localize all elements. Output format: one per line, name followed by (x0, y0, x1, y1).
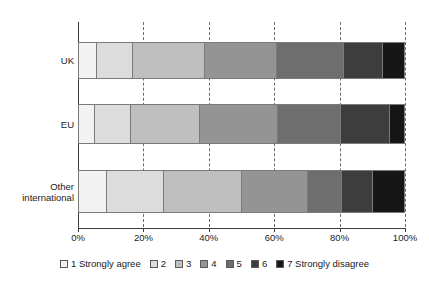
bar-segment (78, 42, 96, 79)
y-axis-label-eu: EU (0, 119, 74, 130)
legend-item-1[interactable]: 1 Strongly agree (60, 258, 141, 269)
legend-swatch-icon (175, 260, 183, 268)
bar-segment (389, 104, 405, 144)
gridline-100 (405, 22, 406, 227)
bar-segment (204, 42, 276, 79)
bar-segment (78, 104, 94, 144)
bar-segment (132, 42, 204, 79)
chart-legend: 1 Strongly agree234567 Strongly disagree (0, 258, 429, 269)
bar-segment (78, 170, 106, 213)
y-axis-label-uk: UK (0, 55, 74, 66)
bar-uk (78, 42, 405, 79)
bar-segment (106, 170, 163, 213)
y-axis-label-line: Other (0, 181, 74, 192)
legend-label: 2 (161, 258, 166, 269)
y-axis-label-line: international (0, 192, 74, 203)
x-axis-tick-80: 80% (320, 232, 360, 243)
legend-label: 5 (237, 258, 242, 269)
bar-segment (341, 170, 372, 213)
legend-swatch-icon (150, 260, 158, 268)
y-axis-label-line: UK (0, 55, 74, 66)
bar-segment (94, 104, 130, 144)
bar-segment (96, 42, 132, 79)
legend-item-4[interactable]: 4 (200, 258, 216, 269)
legend-item-7[interactable]: 7 Strongly disagree (276, 258, 369, 269)
legend-swatch-icon (251, 260, 259, 268)
bar-segment (163, 170, 241, 213)
legend-label: 1 Strongly agree (71, 258, 141, 269)
legend-swatch-icon (226, 260, 234, 268)
legend-item-2[interactable]: 2 (150, 258, 166, 269)
bar-segment (372, 170, 405, 213)
bar-segment (276, 42, 343, 79)
bar-segment (130, 104, 199, 144)
y-axis-label-line: EU (0, 119, 74, 130)
stacked-bar-chart: UKEUOtherinternational 0%20%40%60%80%100… (0, 0, 429, 285)
x-axis-tick-20: 20% (123, 232, 163, 243)
legend-label: 3 (186, 258, 191, 269)
bar-eu (78, 104, 405, 144)
bar-segment (340, 104, 389, 144)
bars-layer (78, 22, 405, 227)
legend-label: 4 (211, 258, 216, 269)
x-axis-tick-40: 40% (189, 232, 229, 243)
bar-segment (199, 104, 277, 144)
legend-label: 6 (262, 258, 267, 269)
bar-segment (382, 42, 405, 79)
y-axis-label-other-international: Otherinternational (0, 181, 74, 203)
bar-segment (307, 170, 341, 213)
legend-item-6[interactable]: 6 (251, 258, 267, 269)
legend-item-5[interactable]: 5 (226, 258, 242, 269)
x-axis-line (78, 228, 406, 229)
legend-item-3[interactable]: 3 (175, 258, 191, 269)
legend-swatch-icon (60, 260, 68, 268)
x-axis-tick-60: 60% (254, 232, 294, 243)
bar-other-international (78, 170, 405, 213)
bar-segment (343, 42, 382, 79)
x-axis-tick-0: 0% (58, 232, 98, 243)
x-axis-tick-100: 100% (385, 232, 425, 243)
legend-swatch-icon (200, 260, 208, 268)
bar-segment (277, 104, 339, 144)
legend-label: 7 Strongly disagree (287, 258, 369, 269)
bar-segment (241, 170, 306, 213)
legend-swatch-icon (276, 260, 284, 268)
